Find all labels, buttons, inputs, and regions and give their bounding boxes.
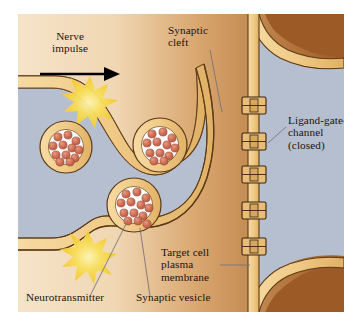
vesicle-upper-right bbox=[133, 118, 187, 172]
synapse-diagram-figure: Nerve impulse Synaptic cleft Ligand-gate… bbox=[0, 0, 357, 330]
channel-4 bbox=[242, 202, 266, 219]
target-membrane-vertical bbox=[248, 14, 259, 312]
label-ligand-gated-channel: Ligand-gated channel (closed) bbox=[288, 114, 344, 151]
label-target-cell-membrane: Target cell plasma membrane bbox=[161, 246, 209, 283]
label-nerve-impulse: Nerve impulse bbox=[52, 30, 88, 55]
channel-5 bbox=[242, 238, 266, 255]
label-synaptic-vesicle: Synaptic vesicle bbox=[136, 291, 211, 303]
vesicle-left bbox=[40, 121, 92, 173]
channel-1 bbox=[242, 97, 266, 114]
diagram-canvas: Nerve impulse Synaptic cleft Ligand-gate… bbox=[18, 14, 344, 312]
vesicle-fusing bbox=[107, 178, 161, 232]
label-neurotransmitter: Neurotransmitter bbox=[26, 291, 104, 303]
label-synaptic-cleft: Synaptic cleft bbox=[168, 24, 208, 49]
channel-2 bbox=[242, 133, 266, 150]
channel-3 bbox=[242, 166, 266, 183]
target-cell bbox=[248, 14, 344, 312]
